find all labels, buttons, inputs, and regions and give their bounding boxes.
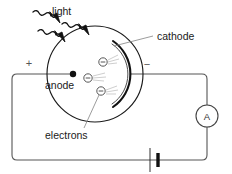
cathode-arc-inner: [112, 44, 128, 104]
anode-label: anode: [45, 79, 74, 91]
wire-right-branch: [130, 74, 207, 105]
electron-trail: [106, 86, 118, 94]
light-label: light: [52, 5, 71, 17]
ammeter-label: A: [204, 111, 211, 122]
ammeter[interactable]: A: [196, 105, 218, 127]
electrons-leader-line: [84, 95, 99, 128]
plus-sign-label: +: [26, 57, 32, 69]
light-ray-wave: [62, 23, 89, 35]
electron: [84, 73, 106, 82]
electron: [97, 86, 118, 95]
electron-group: [84, 55, 119, 95]
photoelectric-effect-diagram: A: [0, 0, 232, 174]
circuit-wiring: [12, 74, 207, 160]
anode-dot: [70, 71, 76, 77]
electrons-label: electrons: [45, 129, 88, 141]
cathode-label: cathode: [157, 30, 195, 42]
minus-sign-label: −: [144, 58, 150, 70]
electron-trail: [93, 73, 106, 81]
diagram-canvas: A: [0, 0, 232, 174]
electron-trail: [108, 55, 119, 64]
electron: [99, 55, 119, 66]
light-ray-arrowhead: [79, 24, 89, 35]
cathode-plate: [112, 41, 130, 107]
